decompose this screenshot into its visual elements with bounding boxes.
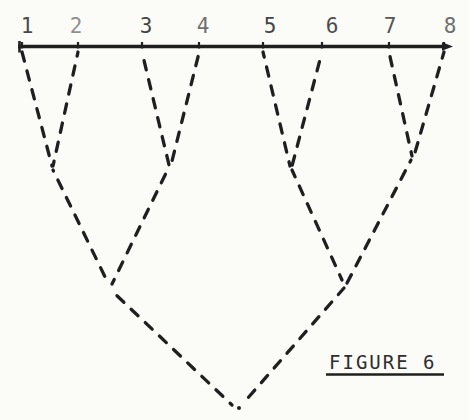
dashed-segment-leaf4-to-m34 bbox=[171, 53, 199, 165]
dashed-segment-leaf3-to-m34 bbox=[142, 52, 169, 165]
leaf-label-7: 7 bbox=[384, 14, 397, 38]
scanned-figure-page: 12345678FIGURE 6 bbox=[0, 0, 469, 420]
dashed-segment-m5678-to-root bbox=[247, 288, 344, 399]
dashed-segment-leaf5-to-m56 bbox=[263, 52, 290, 166]
apex-dot bbox=[237, 406, 241, 410]
dashed-segment-leaf2-to-m12 bbox=[53, 52, 78, 166]
leaf-label-8: 8 bbox=[444, 14, 457, 38]
dashed-segment-m34-to-m1234 bbox=[112, 169, 168, 284]
leaf-label-6: 6 bbox=[326, 14, 339, 38]
leaf-label-1: 1 bbox=[21, 14, 34, 38]
figure-6-diagram: 12345678FIGURE 6 bbox=[0, 0, 469, 420]
dashed-segment-leaf8-to-m78 bbox=[414, 52, 444, 156]
dashed-segment-m1234-to-root bbox=[112, 291, 232, 405]
dashed-segment-leaf6-to-m56 bbox=[292, 52, 322, 166]
dashed-segment-m78-to-m5678 bbox=[346, 160, 411, 285]
dashed-segment-leaf1-to-m12 bbox=[22, 52, 52, 166]
dashed-segment-m12-to-m1234 bbox=[53, 170, 109, 285]
leaf-label-4: 4 bbox=[197, 14, 210, 38]
leaf-label-3: 3 bbox=[140, 14, 153, 38]
dashed-segment-leaf7-to-m78 bbox=[389, 52, 412, 156]
figure-caption: FIGURE 6 bbox=[329, 351, 437, 373]
dashed-segment-m56-to-m5678 bbox=[292, 170, 342, 280]
leaf-label-5: 5 bbox=[264, 14, 277, 38]
leaf-label-2: 2 bbox=[70, 14, 83, 38]
